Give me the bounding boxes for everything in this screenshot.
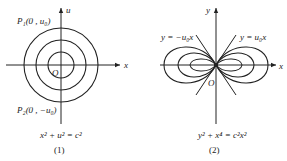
- equation-2: y² + x⁴ = c²x²: [197, 130, 247, 140]
- point-p1-label: P₁(0 , u₀): [16, 16, 51, 26]
- equation-1: x² + u² = c²: [39, 130, 82, 140]
- point-p2-label: P₂(0 , −u₀): [16, 105, 57, 115]
- figure-1: x u O P₁(0 , u₀) P₂(0 , −u₀) x² + u² = c…: [6, 5, 128, 155]
- origin-label: O: [208, 78, 215, 88]
- x-axis-label: x: [123, 60, 128, 70]
- caption-2: (2): [209, 145, 220, 155]
- diagram-canvas: x u O P₁(0 , u₀) P₂(0 , −u₀) x² + u² = c…: [0, 0, 287, 161]
- figure-2: x y O y = −u₀x y = u₀x y² + x⁴ = c²x² (2…: [160, 5, 283, 155]
- origin-label: O: [52, 68, 59, 78]
- line-neg-label: y = −u₀x: [160, 32, 193, 42]
- line-pos-label: y = u₀x: [239, 32, 266, 42]
- origin-dot: [214, 63, 218, 67]
- x-axis-label: x: [278, 61, 283, 71]
- y-axis-label: y: [205, 5, 210, 15]
- caption-1: (1): [54, 145, 65, 155]
- u-axis-label: u: [66, 5, 71, 15]
